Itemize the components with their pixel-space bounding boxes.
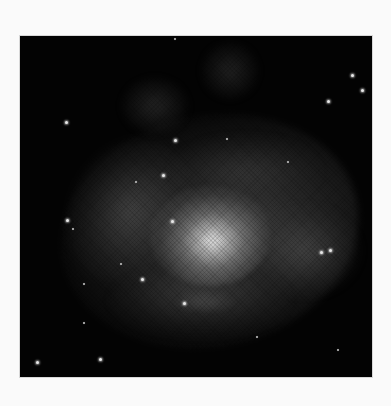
star <box>174 38 176 40</box>
galaxy-photo <box>20 36 372 377</box>
star <box>66 219 69 222</box>
star <box>256 336 258 338</box>
star <box>171 220 174 223</box>
star <box>174 139 177 142</box>
galaxy-disk <box>39 87 372 374</box>
star <box>337 349 339 351</box>
spiral-arm-lower <box>110 266 290 336</box>
star <box>327 100 330 103</box>
star <box>141 278 144 281</box>
nebula-patch <box>120 76 190 136</box>
star <box>287 161 289 163</box>
star <box>183 302 186 305</box>
star <box>120 263 122 265</box>
star <box>329 249 332 252</box>
star <box>162 174 165 177</box>
film-grain <box>20 36 372 377</box>
star <box>99 358 102 361</box>
spiral-arm-left <box>44 118 216 305</box>
star <box>226 138 228 140</box>
star <box>361 89 364 92</box>
star <box>320 251 323 254</box>
nebula-patch <box>200 41 260 101</box>
star <box>72 228 74 230</box>
star <box>135 181 137 183</box>
star <box>83 322 85 324</box>
spiral-arm-right <box>250 206 360 296</box>
star <box>83 283 85 285</box>
star <box>36 361 39 364</box>
star <box>351 74 354 77</box>
spiral-arm-upper <box>170 136 320 206</box>
star <box>65 121 68 124</box>
galaxy-core <box>150 186 270 286</box>
